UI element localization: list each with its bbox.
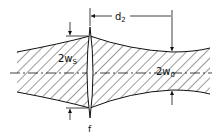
beam-envelope [0, 0, 217, 137]
lens-focal-label: f [88, 124, 92, 134]
waist-marker [170, 91, 174, 105]
beam-diagram: 2wS 2w0 d2 f [0, 0, 217, 137]
distance-label: d2 [115, 11, 126, 24]
